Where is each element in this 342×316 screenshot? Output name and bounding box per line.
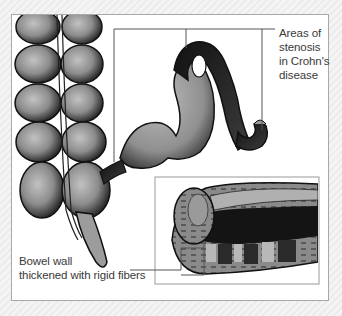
stenosis-label-line-1: Areas of — [279, 26, 339, 40]
small-intestine-illustration — [100, 42, 267, 184]
colon-illustration — [15, 10, 110, 267]
stenosis-label-line-4: disease — [279, 68, 339, 82]
stenosis-label-line-2: stenosis — [279, 40, 339, 54]
bowel-wall-label: Bowel wall thickened with rigid fibers — [19, 254, 169, 282]
bowel-wall-label-line-2: thickened with rigid fibers — [19, 268, 169, 282]
bowel-wall-label-line-1: Bowel wall — [19, 254, 169, 268]
stenosis-label-line-3: in Crohn's — [279, 54, 339, 68]
stenosis-label: Areas of stenosis in Crohn's disease — [279, 26, 339, 82]
bowel-wall-cross-section-inset — [155, 177, 319, 284]
